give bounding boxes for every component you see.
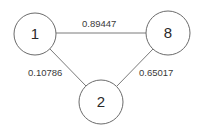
graph-diagram: 0.89447 0.10786 0.65017 1 8 2 <box>0 0 199 128</box>
node-label-1: 1 <box>31 25 39 42</box>
edge-label-1-8: 0.89447 <box>82 18 116 29</box>
node-2: 2 <box>79 80 123 124</box>
node-label-2: 2 <box>97 93 105 110</box>
node-label-8: 8 <box>164 24 172 41</box>
edge-label-1-2: 0.10786 <box>28 67 62 78</box>
node-8: 8 <box>146 11 190 55</box>
edge-label-8-2: 0.65017 <box>139 67 173 78</box>
node-1: 1 <box>14 13 56 55</box>
